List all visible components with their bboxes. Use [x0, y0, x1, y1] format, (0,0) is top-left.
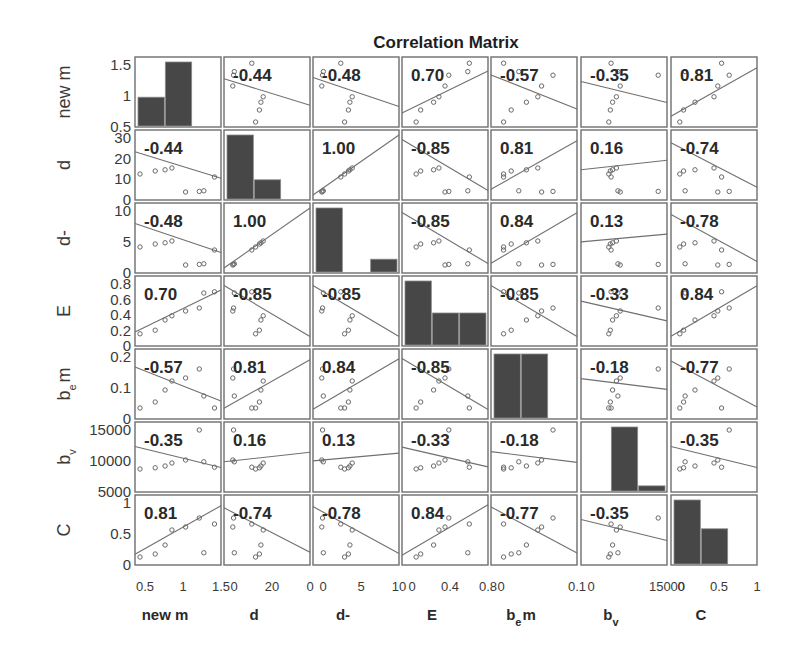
x-tick-label: 10: [392, 579, 406, 594]
y-tick-label: 10000: [89, 452, 131, 469]
correlation-value: -0.57: [500, 66, 539, 85]
x-tick-label: 20: [265, 579, 279, 594]
matrix-cell-6-5: -0.35: [581, 495, 667, 565]
matrix-cell-4-4: [491, 349, 577, 419]
histogram-bar: [494, 354, 520, 418]
x-axis-4: 00.1bem: [497, 579, 586, 628]
matrix-cell-3-3: [402, 276, 488, 346]
correlation-value: 0.70: [144, 285, 177, 304]
matrix-cell-2-5: 0.13: [581, 203, 667, 273]
matrix-cell-1-6: -0.74: [671, 130, 757, 200]
correlation-value: -0.85: [411, 139, 450, 158]
x-axis-label: new m: [142, 606, 189, 623]
matrix-cell-1-5: 0.16: [581, 130, 667, 200]
matrix-cell-6-4: -0.77: [491, 495, 577, 565]
matrix-cell-4-3: -0.85: [402, 349, 488, 419]
correlation-value: 0.13: [590, 212, 623, 231]
y-axis-5: 15000100005000bv: [54, 421, 131, 500]
correlation-value: -0.77: [500, 504, 539, 523]
matrix-cell-0-2: -0.48: [313, 57, 399, 127]
histogram-bar: [405, 281, 431, 345]
y-tick-label: 0.8: [110, 275, 131, 292]
x-tick-label: 5: [357, 579, 364, 594]
matrix-cell-4-1: 0.81: [224, 349, 310, 419]
correlation-value: -0.44: [233, 66, 272, 85]
correlation-value: -0.35: [590, 504, 629, 523]
x-tick-label: 0.5: [136, 579, 154, 594]
y-tick-label: 0.2: [110, 322, 131, 339]
y-axis-label: E: [54, 305, 74, 317]
correlation-value: 0.16: [590, 139, 623, 158]
correlation-value: -0.78: [680, 212, 719, 231]
matrix-cell-5-6: -0.35: [671, 422, 757, 492]
histogram-bar: [611, 427, 637, 491]
histogram-bar: [227, 135, 253, 199]
matrix-cell-3-5: -0.33: [581, 276, 667, 346]
x-axis-label: E: [427, 606, 437, 623]
y-tick-label: 0.6: [110, 291, 131, 308]
correlation-value: -0.48: [322, 66, 361, 85]
matrix-cell-0-1: -0.44: [224, 57, 310, 127]
matrix-cells: -0.44-0.480.70-0.57-0.350.81-0.441.00-0.…: [135, 57, 757, 565]
correlation-value: -0.78: [322, 504, 361, 523]
matrix-cell-6-1: -0.74: [224, 495, 310, 565]
matrix-cell-6-3: 0.84: [402, 495, 488, 565]
correlation-value: -0.48: [144, 212, 183, 231]
y-tick-label: 0.5: [110, 525, 131, 542]
correlation-value: -0.18: [500, 431, 539, 450]
x-tick-label: 0: [677, 579, 684, 594]
correlation-value: 0.81: [500, 139, 533, 158]
y-tick-label: 0.1: [110, 379, 131, 396]
x-axis-5: 015000bv: [587, 579, 685, 628]
matrix-cell-3-4: -0.85: [491, 276, 577, 346]
matrix-cell-2-0: -0.48: [135, 203, 221, 273]
y-tick-label: 0.4: [110, 306, 131, 323]
histogram-bar: [138, 97, 164, 126]
correlation-value: -0.74: [680, 139, 719, 158]
x-tick-label: 0: [587, 579, 594, 594]
histogram-bar: [371, 259, 397, 272]
histogram-bar: [521, 354, 547, 418]
correlation-value: -0.35: [144, 431, 183, 450]
histogram-bar: [639, 486, 665, 491]
matrix-cell-1-0: -0.44: [135, 130, 221, 200]
y-axes: 1.510.5new m3020100d1050d-0.80.60.40.20E…: [54, 56, 131, 573]
histogram-bar: [165, 62, 191, 126]
x-axis-label: d-: [336, 606, 350, 623]
matrix-cell-6-2: -0.78: [313, 495, 399, 565]
correlation-value: -0.85: [411, 358, 450, 377]
histogram-bar: [460, 313, 486, 345]
x-tick-label: 0: [408, 579, 415, 594]
x-axis-2: 0510d-: [319, 579, 406, 623]
matrix-cell-1-3: -0.85: [402, 130, 488, 200]
histogram-bar: [432, 313, 458, 345]
matrix-cell-5-0: -0.35: [135, 422, 221, 492]
correlation-value: 0.84: [500, 212, 534, 231]
x-axis-0: 0.511.5new m: [136, 579, 230, 623]
x-tick-label: 0: [230, 579, 237, 594]
y-tick-label: 0.2: [110, 348, 131, 365]
y-axis-0: 1.510.5new m: [54, 56, 131, 135]
y-axis-label: d: [54, 160, 74, 170]
correlation-matrix-chart: Correlation Matrix -0.44-0.480.70-0.57-0…: [0, 0, 801, 666]
correlation-value: 0.81: [233, 358, 266, 377]
matrix-cell-2-2: [313, 203, 399, 273]
matrix-cell-2-4: 0.84: [491, 203, 577, 273]
matrix-cell-5-2: 0.13: [313, 422, 399, 492]
chart-title: Correlation Matrix: [373, 33, 519, 52]
correlation-value: -0.35: [680, 431, 719, 450]
x-axis-6: 00.51C: [677, 579, 760, 623]
y-tick-label: 1: [123, 87, 131, 104]
y-axis-4: 0.20.10bem: [54, 348, 131, 427]
matrix-cell-4-6: -0.77: [671, 349, 757, 419]
x-tick-label: 0.8: [479, 579, 497, 594]
x-axis-1: 0200d: [230, 579, 313, 623]
histogram-bar: [674, 500, 700, 564]
correlation-value: -0.85: [500, 285, 539, 304]
y-tick-label: 30: [114, 129, 131, 146]
matrix-cell-0-0: [135, 57, 221, 127]
correlation-value: 0.84: [411, 504, 445, 523]
y-tick-label: 15000: [89, 421, 131, 438]
correlation-value: -0.18: [590, 358, 629, 377]
y-axis-2: 1050d-: [54, 202, 131, 281]
